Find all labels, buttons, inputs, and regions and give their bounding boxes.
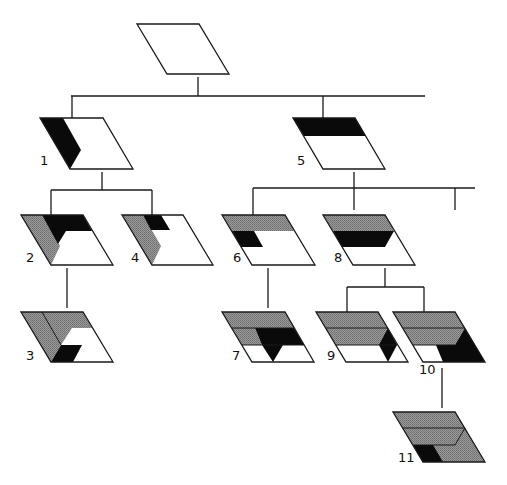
node-label-8: 8 — [334, 250, 342, 265]
node-10 — [393, 312, 485, 362]
node-root — [137, 24, 229, 74]
node-label-11: 11 — [398, 450, 415, 465]
node-label-2: 2 — [26, 250, 34, 265]
node-label-3: 3 — [26, 348, 34, 363]
node-1 — [40, 118, 133, 169]
node-label-4: 4 — [131, 250, 139, 265]
node-2 — [21, 215, 113, 265]
node-5 — [293, 118, 385, 169]
node-label-1: 1 — [40, 153, 48, 168]
node-label-6: 6 — [233, 250, 241, 265]
node-label-5: 5 — [297, 153, 305, 168]
node-3 — [21, 312, 113, 362]
tree-diagram — [0, 0, 507, 485]
node-label-10: 10 — [419, 362, 436, 377]
node-label-9: 9 — [327, 348, 335, 363]
node-label-7: 7 — [232, 348, 240, 363]
